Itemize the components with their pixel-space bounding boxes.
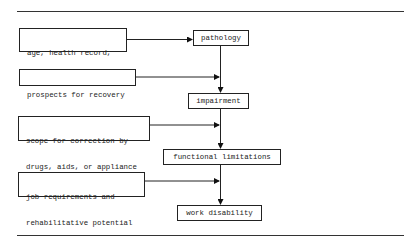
factor-line: age, health record,	[27, 49, 122, 58]
node-label: pathology	[201, 34, 241, 43]
node-work-disability: work disability	[177, 205, 262, 221]
factor-box-job: job requirements and rehabilitative pote…	[18, 172, 145, 197]
factor-box-scope: scope for correction by drugs, aids, or …	[18, 116, 150, 141]
node-pathology: pathology	[193, 30, 249, 46]
node-label: functional limitations	[173, 153, 271, 162]
factor-line: scope for correction by	[26, 137, 145, 146]
node-label: work disability	[186, 209, 253, 218]
factor-box-age-health: age, health record, occupational hazards	[19, 28, 127, 52]
factor-box-prospects: prospects for recovery	[19, 69, 136, 86]
factor-line: prospects for recovery	[27, 91, 131, 100]
factor-line: rehabilitative potential	[26, 219, 140, 228]
node-label: impairment	[196, 97, 240, 106]
node-impairment: impairment	[188, 93, 249, 109]
node-functional-limitations: functional limitations	[163, 149, 281, 165]
factor-line: job requirements and	[26, 193, 140, 202]
factor-line: drugs, aids, or appliance	[26, 163, 145, 172]
